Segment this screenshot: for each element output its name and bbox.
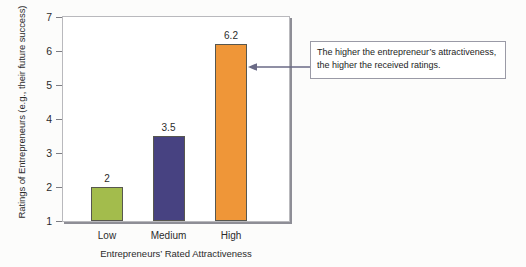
x-axis-label-low: Low <box>77 230 137 241</box>
bar-value-label-high: 6.2 <box>211 30 251 41</box>
bar-medium <box>153 136 185 221</box>
y-axis-tick-label: 6 <box>38 46 52 56</box>
plot-area-right-edge <box>290 18 292 224</box>
annotation-line-1: The higher the entrepreneur’s attractive… <box>317 46 499 59</box>
y-axis-tick <box>56 187 62 188</box>
x-axis-label-high: High <box>201 230 261 241</box>
y-axis-tick-label: 1 <box>38 216 52 226</box>
y-axis-tick <box>56 153 62 154</box>
y-axis-tick <box>56 17 62 18</box>
y-axis-title: Ratings of Entrepreneurs (e.g., their fu… <box>16 2 32 222</box>
y-axis-tick <box>56 221 62 222</box>
plot-area-bottom-edge <box>64 222 292 224</box>
y-axis-tick-label: 3 <box>38 148 52 158</box>
bar-value-label-medium: 3.5 <box>149 122 189 133</box>
annotation-arrow-icon <box>248 60 310 74</box>
x-axis-label-medium: Medium <box>139 230 199 241</box>
annotation-line-2: the higher the received ratings. <box>317 59 499 72</box>
y-axis-tick-label: 2 <box>38 182 52 192</box>
bar-low <box>91 187 123 221</box>
y-axis-tick-label: 5 <box>38 80 52 90</box>
y-axis-tick <box>56 51 62 52</box>
y-axis-tick <box>56 119 62 120</box>
x-axis-title: Entrepreneurs’ Rated Attractiveness <box>62 248 290 259</box>
bar-high <box>215 44 247 221</box>
bar-value-label-low: 2 <box>87 173 127 184</box>
chart-figure: Ratings of Entrepreneurs (e.g., their fu… <box>0 0 526 267</box>
y-axis-tick <box>56 85 62 86</box>
y-axis-tick-label: 7 <box>38 12 52 22</box>
y-axis-tick-label: 4 <box>38 114 52 124</box>
annotation-textbox: The higher the entrepreneur’s attractive… <box>310 41 506 79</box>
